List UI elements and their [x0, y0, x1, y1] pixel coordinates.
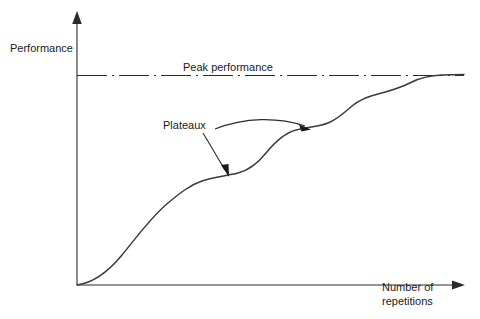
- plateaux-curved-leader-line: [215, 120, 305, 129]
- x-axis-label-line1: Number of: [382, 281, 434, 293]
- x-axis-label-line2: repetitions: [382, 295, 433, 307]
- y-axis-label: Performance: [10, 42, 73, 54]
- y-axis-arrowhead-icon: [72, 11, 82, 24]
- plateaux-straight-leader-line: [203, 133, 225, 170]
- learning-curve-figure: Performance Number of repetitions Peak p…: [0, 0, 480, 319]
- x-axis-arrowhead-icon: [452, 280, 465, 289]
- peak-performance-label: Peak performance: [183, 61, 273, 73]
- plateaux-label: Plateaux: [163, 119, 206, 131]
- diagram-canvas: Performance Number of repetitions Peak p…: [0, 0, 480, 319]
- learning-curve-path: [77, 75, 464, 286]
